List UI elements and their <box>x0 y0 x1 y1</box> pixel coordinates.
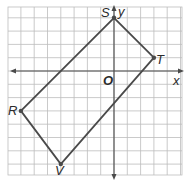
origin-label: O <box>103 74 113 87</box>
vertex-point-s <box>112 16 116 20</box>
vertex-point-r <box>19 109 23 113</box>
y-axis-label: y <box>118 5 125 18</box>
vertex-label-t: T <box>156 53 164 66</box>
grid-lines <box>8 7 182 175</box>
vertex-label-r: R <box>8 104 17 117</box>
vertex-label-v: V <box>55 164 64 177</box>
y-axis-arrow-down-icon <box>112 174 117 180</box>
vertex-label-s: S <box>101 6 110 19</box>
coordinate-plane <box>0 0 191 186</box>
x-axis-label: x <box>173 74 180 87</box>
